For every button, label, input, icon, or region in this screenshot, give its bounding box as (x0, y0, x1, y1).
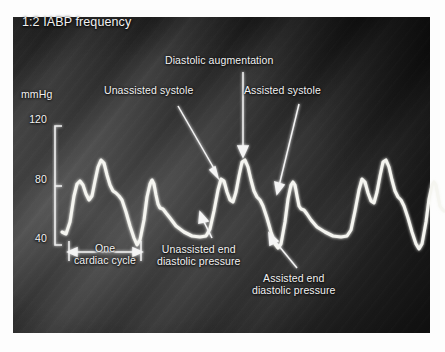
annotation-arrows (68, 72, 299, 268)
label-unassisted-systole: Unassisted systole (104, 84, 193, 96)
page-title: 1:2 IABP frequency (22, 15, 131, 30)
label-assisted-systole: Assisted systole (244, 84, 321, 96)
y-tick-40: 40 (21, 232, 47, 244)
y-axis (55, 126, 62, 245)
label-assisted-end-diastolic-pressure: Assisted end diastolic pressure (252, 272, 336, 297)
figure-container: 1:2 IABP frequency mmHg 120 80 40 Unassi… (0, 0, 445, 352)
waveform-svg (0, 0, 445, 352)
y-tick-80: 80 (21, 173, 47, 185)
pressure-waveform-trace (62, 160, 444, 249)
label-unassisted-end-diastolic-pressure: Unassisted end diastolic pressure (157, 243, 241, 268)
label-one-cardiac-cycle: One cardiac cycle (68, 242, 142, 267)
y-axis-unit-label: mmHg (21, 88, 52, 100)
label-diastolic-augmentation: Diastolic augmentation (165, 54, 273, 66)
arrow-unassisted-systole (178, 106, 218, 178)
arrow-assisted-systole (275, 104, 299, 194)
y-tick-120: 120 (21, 113, 47, 125)
